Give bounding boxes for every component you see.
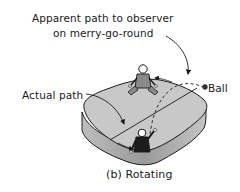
figure-caption: (b) Rotating [106,169,173,181]
ball-icon [203,85,208,90]
actual-path-label: Actual path [22,89,83,101]
apparent-path-label-line2: on merry-go-round [53,27,154,39]
ball-label: Ball [208,82,228,94]
apparent-path-label-line1: Apparent path to observer [32,12,174,24]
apparent-path-leader [166,36,188,74]
